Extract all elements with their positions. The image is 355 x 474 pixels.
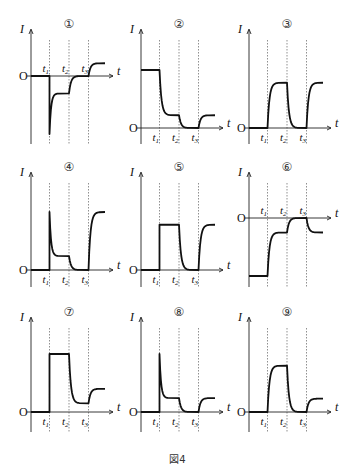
current-curve: [249, 366, 323, 412]
origin-label: O: [129, 263, 138, 277]
y-axis-label: I: [19, 310, 25, 324]
y-axis-label: I: [129, 22, 135, 36]
panel-number: ⑨: [282, 305, 293, 319]
time-mark-label: t2: [280, 204, 287, 218]
panel-number: ⑤: [174, 160, 185, 174]
figure-4-current-graphs: ①ItOt1t2t3②ItOt1t2t3③ItOt1t2t3④ItOt1t2t3…: [0, 0, 355, 474]
y-axis-label: I: [19, 165, 25, 179]
panel-4: ④ItOt1t2t3: [19, 160, 121, 287]
time-mark-label: t2: [172, 131, 179, 145]
panel-number: ⑥: [282, 160, 293, 174]
t-axis-label: t: [227, 400, 231, 414]
panel-5: ⑤ItOt1t2t3: [129, 160, 231, 287]
time-mark-label: t2: [62, 273, 69, 287]
current-curve: [249, 218, 323, 276]
time-mark-label: t2: [62, 62, 69, 76]
time-mark-label: t1: [43, 273, 50, 287]
current-curve: [141, 354, 215, 412]
current-curve: [249, 83, 323, 128]
time-mark-label: t2: [172, 415, 179, 429]
panel-2: ②ItOt1t2t3: [129, 17, 231, 145]
t-axis-label: t: [117, 64, 121, 78]
time-mark-label: t3: [82, 273, 89, 287]
panel-number: ②: [174, 17, 185, 31]
time-mark-label: t3: [192, 131, 199, 145]
current-curve: [31, 354, 105, 412]
time-mark-label: t2: [62, 415, 69, 429]
t-axis-label: t: [227, 116, 231, 130]
time-mark-label: t1: [153, 131, 160, 145]
t-axis-label: t: [227, 258, 231, 272]
panel-9: ⑨ItOt1t2t3: [237, 305, 339, 432]
time-mark-label: t3: [300, 204, 307, 218]
panel-number: ④: [64, 160, 75, 174]
time-mark-label: t3: [300, 131, 307, 145]
time-mark-label: t2: [280, 131, 287, 145]
time-mark-label: t1: [153, 273, 160, 287]
time-mark-label: t1: [153, 415, 160, 429]
time-mark-label: t3: [192, 273, 199, 287]
panel-8: ⑧ItOt1t2t3: [129, 305, 231, 432]
time-mark-label: t3: [82, 62, 89, 76]
origin-label: O: [19, 405, 28, 419]
panel-6: ⑥ItOt1t2t3: [237, 160, 339, 287]
time-mark-label: t1: [261, 415, 268, 429]
t-axis-label: t: [335, 116, 339, 130]
panel-number: ⑦: [64, 305, 75, 319]
y-axis-label: I: [237, 310, 243, 324]
figure-caption: 図4: [0, 451, 355, 466]
origin-label: O: [237, 211, 246, 225]
panel-3: ③ItOt1t2t3: [237, 17, 339, 145]
time-mark-label: t1: [43, 62, 50, 76]
current-curve: [141, 225, 215, 270]
time-mark-label: t1: [261, 204, 268, 218]
time-mark-label: t2: [172, 273, 179, 287]
current-curve: [141, 70, 215, 128]
panel-number: ③: [282, 17, 293, 31]
panel-number: ⑧: [174, 305, 185, 319]
t-axis-label: t: [335, 400, 339, 414]
time-mark-label: t2: [280, 415, 287, 429]
t-axis-label: t: [117, 258, 121, 272]
origin-label: O: [129, 121, 138, 135]
origin-label: O: [237, 405, 246, 419]
origin-label: O: [237, 121, 246, 135]
t-axis-label: t: [335, 206, 339, 220]
origin-label: O: [19, 263, 28, 277]
y-axis-label: I: [237, 165, 243, 179]
time-mark-label: t1: [43, 415, 50, 429]
origin-label: O: [129, 405, 138, 419]
y-axis-label: I: [19, 22, 25, 36]
panel-number: ①: [64, 17, 75, 31]
time-mark-label: t3: [82, 415, 89, 429]
time-mark-label: t3: [192, 415, 199, 429]
t-axis-label: t: [117, 400, 121, 414]
y-axis-label: I: [129, 310, 135, 324]
time-mark-label: t3: [300, 415, 307, 429]
y-axis-label: I: [129, 165, 135, 179]
y-axis-label: I: [237, 22, 243, 36]
current-curve: [31, 212, 105, 270]
time-mark-label: t1: [261, 131, 268, 145]
panel-1: ①ItOt1t2t3: [19, 17, 121, 144]
panel-7: ⑦ItOt1t2t3: [19, 305, 121, 432]
origin-label: O: [19, 69, 28, 83]
